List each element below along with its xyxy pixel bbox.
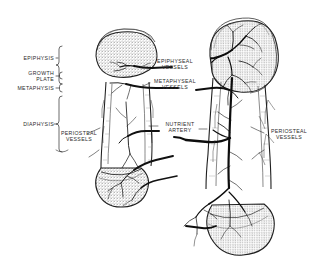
label-epiphyseal-vessels-line2: VESSELS xyxy=(150,64,200,70)
label-epiphysis: EPIPHYSIS xyxy=(6,55,54,61)
label-growth-plate-line2: PLATE xyxy=(6,76,54,82)
label-periosteal-vessels-right: PERIOSTEAL VESSELS xyxy=(265,128,313,141)
label-metaphysis: METAPHYSIS xyxy=(2,85,54,91)
label-metaphyseal-vessels: METAPHYSEAL VESSELS xyxy=(147,78,203,91)
label-periosteal-vessels-left-line2: VESSELS xyxy=(56,136,102,142)
label-metaphyseal-vessels-line2: VESSELS xyxy=(147,84,203,90)
label-nutrient-artery-line2: ARTERY xyxy=(160,127,200,133)
label-epiphyseal-vessels: EPIPHYSEAL VESSELS xyxy=(150,58,200,71)
label-diaphysis: DIAPHYSIS xyxy=(6,121,54,127)
label-periosteal-vessels-left: PERIOSTEAL VESSELS xyxy=(56,130,102,143)
label-periosteal-vessels-right-line2: VESSELS xyxy=(265,134,313,140)
label-nutrient-artery: NUTRIENT ARTERY xyxy=(160,121,200,134)
